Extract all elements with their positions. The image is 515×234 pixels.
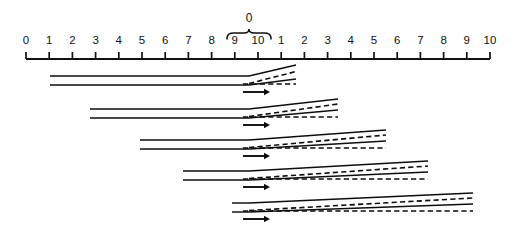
diverging-upper-solid xyxy=(249,65,296,76)
direction-arrow-head xyxy=(264,153,270,159)
diverging-upper-solid xyxy=(249,161,428,171)
axis-tick-label: 10 xyxy=(252,34,265,46)
band-1 xyxy=(50,65,296,95)
axis-tick-label: 2 xyxy=(301,34,307,46)
bands-group xyxy=(50,65,473,222)
band-3 xyxy=(140,130,386,159)
axis-tick-label: 3 xyxy=(324,34,330,46)
axis-tick-label: 7 xyxy=(185,34,191,46)
band-4 xyxy=(183,161,428,190)
axis-tick-label: 5 xyxy=(139,34,145,46)
axis-tick-label: 9 xyxy=(232,34,238,46)
direction-arrow-head xyxy=(264,216,270,222)
diverging-upper-solid xyxy=(249,193,473,203)
axis-tick-label: 4 xyxy=(348,34,355,46)
axis-tick-label: 0 xyxy=(23,34,29,46)
direction-arrow-head xyxy=(264,122,270,128)
direction-arrow-head xyxy=(264,184,270,190)
axis-tick-label: 1 xyxy=(278,34,284,46)
band-5 xyxy=(232,193,473,222)
axis-tick-label: 3 xyxy=(92,34,98,46)
brace-label: 0 xyxy=(246,11,253,25)
axis-tick-label: 6 xyxy=(162,34,168,46)
axis-tick-label: 7 xyxy=(417,34,423,46)
axis-tick-label: 1 xyxy=(46,34,52,46)
figure-canvas: 0 01234567891012345678910 xyxy=(0,0,515,234)
scale-axis-group: 01234567891012345678910 xyxy=(23,34,497,59)
axis-tick-label: 5 xyxy=(371,34,377,46)
ray-divergence-diagram: 0 01234567891012345678910 xyxy=(0,0,515,234)
diverging-upper-solid xyxy=(249,130,386,140)
band-2 xyxy=(90,99,338,128)
axis-tick-label: 6 xyxy=(394,34,400,46)
axis-tick-label: 9 xyxy=(464,34,470,46)
axis-tick-label: 8 xyxy=(440,34,446,46)
axis-tick-label: 2 xyxy=(69,34,75,46)
axis-tick-label: 8 xyxy=(208,34,214,46)
direction-arrow-head xyxy=(264,89,270,95)
axis-tick-label: 4 xyxy=(116,34,123,46)
diverging-upper-solid xyxy=(249,99,338,109)
axis-tick-label: 10 xyxy=(484,34,497,46)
